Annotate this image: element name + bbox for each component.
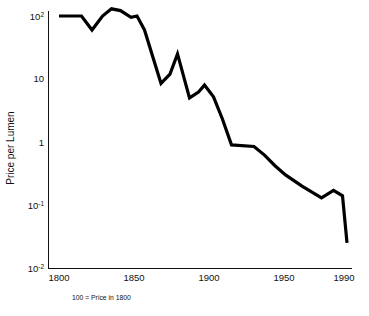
chart-figure: 102 10 1 10-1 10-2 1800 1850 1900 1950 1… <box>0 0 369 316</box>
y-tick-label-1: 1 <box>39 137 44 148</box>
x-tick-label-1800: 1800 <box>48 272 69 283</box>
y-tick-label-10: 10 <box>33 73 44 84</box>
x-tick-label-1850: 1850 <box>123 272 144 283</box>
price-per-lumen-line-chart: 102 10 1 10-1 10-2 1800 1850 1900 1950 1… <box>0 0 369 316</box>
x-tick-label-1990: 1990 <box>333 272 354 283</box>
x-tick-label-1900: 1900 <box>198 272 219 283</box>
x-tick-label-1950: 1950 <box>273 272 294 283</box>
y-axis-title: Price per Lumen <box>5 111 16 184</box>
chart-caption: 100 = Price in 1800 <box>72 294 131 301</box>
